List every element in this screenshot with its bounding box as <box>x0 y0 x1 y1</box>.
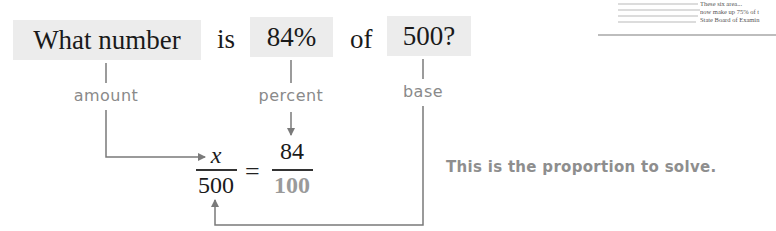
connector-lines <box>0 0 776 231</box>
right-fraction-bar <box>272 169 313 171</box>
left-fraction-bar <box>196 169 237 171</box>
left-numerator: x <box>191 142 241 169</box>
proportion-note: This is the proportion to solve. <box>446 158 716 176</box>
equals-sign: = <box>245 157 260 187</box>
right-denominator: 100 <box>267 172 317 199</box>
left-denominator: 500 <box>191 172 241 199</box>
right-numerator: 84 <box>267 138 317 165</box>
